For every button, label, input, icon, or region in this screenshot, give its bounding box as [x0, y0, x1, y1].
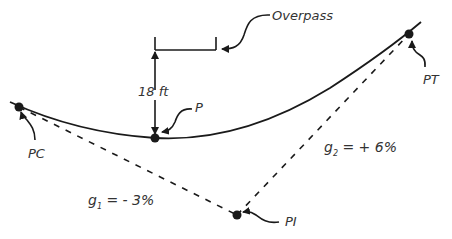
label-pi: PI — [285, 214, 297, 229]
pi-leader-arrow — [243, 212, 279, 223]
label-p: P — [195, 100, 203, 115]
overpass-leader-arrow — [222, 15, 270, 49]
pt-leader-arrow — [412, 41, 425, 67]
label-pt: PT — [423, 72, 440, 87]
svg-text:g1 = - 3%: g1 = - 3% — [88, 192, 154, 211]
tangent-line-g2 — [237, 34, 409, 215]
grade-label-g1: g1 = - 3% — [88, 192, 154, 211]
point-pt-dot — [405, 30, 414, 39]
overpass-structure — [155, 37, 216, 50]
vertical-curve-diagram: 18 ft Overpass P PC PI PT g1 = - 3% g2 =… — [0, 0, 452, 239]
p-leader-arrow — [162, 109, 192, 132]
point-p-dot — [151, 134, 160, 143]
clearance-label: 18 ft — [138, 84, 169, 99]
point-pc-dot — [15, 103, 24, 112]
svg-text:g2 = + 6%: g2 = + 6% — [324, 139, 397, 158]
point-pi-dot — [233, 211, 242, 220]
pc-leader-arrow — [21, 112, 35, 140]
grade-label-g2: g2 = + 6% — [324, 139, 397, 158]
label-pc: PC — [28, 146, 46, 161]
label-overpass: Overpass — [272, 8, 333, 23]
